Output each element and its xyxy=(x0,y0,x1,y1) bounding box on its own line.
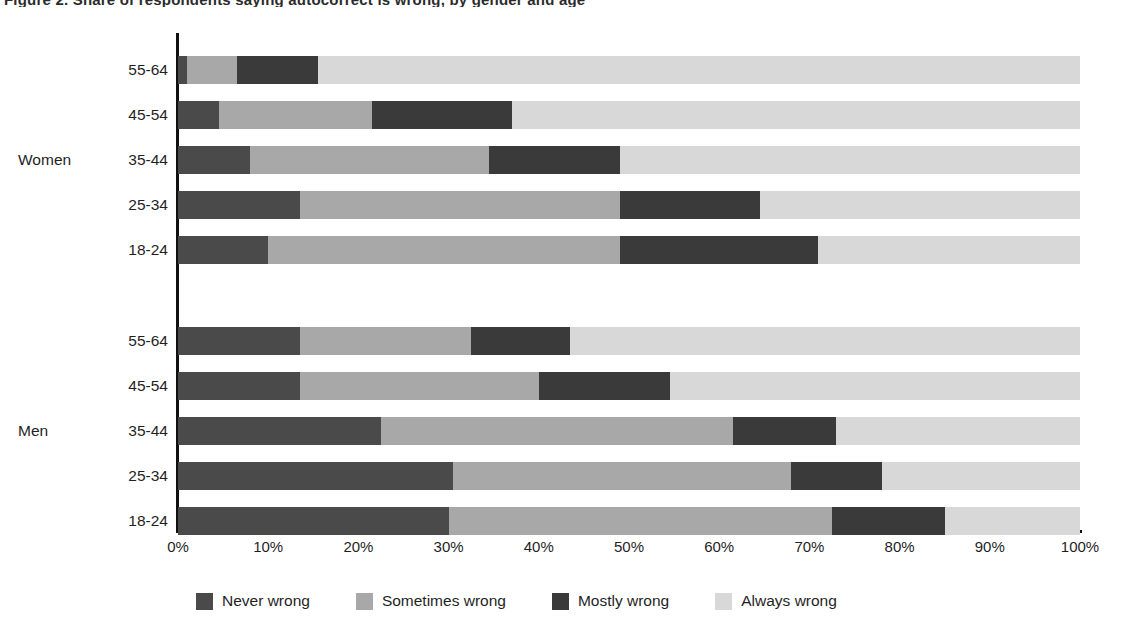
x-tick-80pct: 80% xyxy=(885,538,915,555)
x-axis-tick-labels: 0%10%20%30%40%50%60%70%80%90%100% xyxy=(178,538,1080,562)
bar-segment-sometimes-wrong xyxy=(268,236,620,264)
legend-item-mostly-wrong[interactable]: Mostly wrong xyxy=(552,592,669,610)
plot-area xyxy=(178,36,1080,530)
bar-segment-always-wrong xyxy=(670,372,1080,400)
bar-men-55-64 xyxy=(178,327,1080,355)
bar-segment-never-wrong xyxy=(178,327,300,355)
category-label-column: 55-6445-5435-4425-3418-2455-6445-5435-44… xyxy=(106,36,168,530)
bar-segment-always-wrong xyxy=(760,191,1080,219)
bar-segment-never-wrong xyxy=(178,236,268,264)
chart-legend: Never wrongSometimes wrongMostly wrongAl… xyxy=(196,592,883,610)
bar-segment-never-wrong xyxy=(178,417,381,445)
bar-men-25-34 xyxy=(178,462,1080,490)
bar-segment-sometimes-wrong xyxy=(300,327,471,355)
bar-segment-sometimes-wrong xyxy=(300,372,539,400)
bar-segment-mostly-wrong xyxy=(471,327,570,355)
bar-women-18-24 xyxy=(178,236,1080,264)
bar-segment-always-wrong xyxy=(818,236,1080,264)
category-label-55-64: 55-64 xyxy=(106,327,168,355)
bar-segment-mostly-wrong xyxy=(489,146,620,174)
bar-segment-sometimes-wrong xyxy=(449,507,832,535)
bar-segment-never-wrong xyxy=(178,372,300,400)
bar-segment-never-wrong xyxy=(178,191,300,219)
bar-segment-mostly-wrong xyxy=(620,191,760,219)
x-tick-90pct: 90% xyxy=(975,538,1005,555)
bar-women-55-64 xyxy=(178,56,1080,84)
bar-segment-mostly-wrong xyxy=(832,507,945,535)
group-label-women: Women xyxy=(18,146,106,174)
group-label-men: Men xyxy=(18,417,106,445)
bar-segment-never-wrong xyxy=(178,462,453,490)
x-tick-60pct: 60% xyxy=(704,538,734,555)
x-tick-50pct: 50% xyxy=(614,538,644,555)
bar-segment-sometimes-wrong xyxy=(381,417,733,445)
bar-women-35-44 xyxy=(178,146,1080,174)
category-label-35-44: 35-44 xyxy=(106,146,168,174)
legend-label: Always wrong xyxy=(741,592,837,610)
x-tick-0pct: 0% xyxy=(167,538,189,555)
category-label-35-44: 35-44 xyxy=(106,417,168,445)
bar-segment-sometimes-wrong xyxy=(300,191,620,219)
bar-segment-mostly-wrong xyxy=(733,417,837,445)
bar-segment-sometimes-wrong xyxy=(187,56,237,84)
stacked-bar-chart: Figure 2. Share of respondents saying au… xyxy=(0,0,1133,643)
legend-item-sometimes-wrong[interactable]: Sometimes wrong xyxy=(356,592,506,610)
bar-segment-sometimes-wrong xyxy=(250,146,489,174)
x-tick-100pct: 100% xyxy=(1061,538,1099,555)
category-label-25-34: 25-34 xyxy=(106,462,168,490)
bar-segment-always-wrong xyxy=(570,327,1080,355)
bar-segment-always-wrong xyxy=(945,507,1080,535)
legend-swatch-icon xyxy=(715,593,732,610)
legend-item-never-wrong[interactable]: Never wrong xyxy=(196,592,310,610)
bar-segment-mostly-wrong xyxy=(372,101,512,129)
x-tick-10pct: 10% xyxy=(253,538,283,555)
x-tick-30pct: 30% xyxy=(434,538,464,555)
bar-segment-mostly-wrong xyxy=(539,372,670,400)
legend-label: Sometimes wrong xyxy=(382,592,506,610)
chart-title: Figure 2. Share of respondents saying au… xyxy=(0,0,1133,7)
bar-segment-mostly-wrong xyxy=(237,56,318,84)
category-label-45-54: 45-54 xyxy=(106,372,168,400)
bar-segment-sometimes-wrong xyxy=(453,462,791,490)
bar-segment-sometimes-wrong xyxy=(219,101,372,129)
legend-label: Never wrong xyxy=(222,592,310,610)
legend-label: Mostly wrong xyxy=(578,592,669,610)
bar-segment-always-wrong xyxy=(836,417,1080,445)
x-tick-40pct: 40% xyxy=(524,538,554,555)
bar-men-35-44 xyxy=(178,417,1080,445)
category-label-55-64: 55-64 xyxy=(106,56,168,84)
legend-swatch-icon xyxy=(552,593,569,610)
category-label-25-34: 25-34 xyxy=(106,191,168,219)
group-label-column: WomenMen xyxy=(18,36,106,530)
bar-men-45-54 xyxy=(178,372,1080,400)
x-tick-70pct: 70% xyxy=(794,538,824,555)
x-tick-20pct: 20% xyxy=(343,538,373,555)
legend-item-always-wrong[interactable]: Always wrong xyxy=(715,592,837,610)
bar-segment-never-wrong xyxy=(178,56,187,84)
legend-swatch-icon xyxy=(356,593,373,610)
bar-men-18-24 xyxy=(178,507,1080,535)
bar-segment-mostly-wrong xyxy=(791,462,881,490)
bar-segment-always-wrong xyxy=(318,56,1080,84)
bar-segment-never-wrong xyxy=(178,507,449,535)
legend-swatch-icon xyxy=(196,593,213,610)
bar-segment-never-wrong xyxy=(178,146,250,174)
bar-segment-mostly-wrong xyxy=(620,236,818,264)
bar-women-45-54 xyxy=(178,101,1080,129)
bar-segment-never-wrong xyxy=(178,101,219,129)
bar-segment-always-wrong xyxy=(512,101,1080,129)
bar-segment-always-wrong xyxy=(882,462,1080,490)
bar-segment-always-wrong xyxy=(620,146,1080,174)
category-label-18-24: 18-24 xyxy=(106,507,168,535)
chart-title-clipped: Figure 2. Share of respondents saying au… xyxy=(0,0,1133,7)
bar-women-25-34 xyxy=(178,191,1080,219)
category-label-45-54: 45-54 xyxy=(106,101,168,129)
category-label-18-24: 18-24 xyxy=(106,236,168,264)
